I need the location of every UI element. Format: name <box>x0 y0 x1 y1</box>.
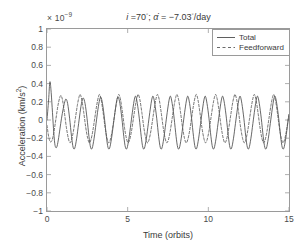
x-axis-label: Time (orbits) <box>46 230 290 240</box>
chart-legend: TotalFeedforward <box>212 29 290 56</box>
x-tick-label: 10 <box>204 214 213 224</box>
legend-item: Total <box>216 33 287 42</box>
title-unit: /day <box>194 12 211 22</box>
legend-item: Feedforward <box>216 43 287 52</box>
x-axis-label-text: Time (orbits) <box>143 230 193 240</box>
data-curves <box>47 29 289 211</box>
x-axis-ticks: 051015 <box>0 214 301 228</box>
legend-line-swatch <box>216 44 236 51</box>
x-tick-label: 15 <box>284 214 293 224</box>
chart-title: i =70◦; α̇ = −7.03◦/day <box>46 10 291 22</box>
y-tick-label: 1 <box>1 24 43 34</box>
series-line-feedforward <box>47 94 289 142</box>
y-axis-label-text: Acceleration (km/s2) <box>17 86 27 167</box>
title-inclination-value: =70 <box>128 12 146 22</box>
x-tick-label: 5 <box>125 214 130 224</box>
legend-label: Total <box>239 33 256 42</box>
legend-line-swatch <box>216 34 236 41</box>
y-axis-label: Acceleration (km/s2) <box>15 51 27 201</box>
x-tick-label: 0 <box>45 214 50 224</box>
legend-label: Feedforward <box>239 43 284 52</box>
title-alpha-dot-value: = −7.03 <box>158 12 191 22</box>
series-line-total <box>47 82 289 149</box>
figure-panel: × 10−9 i =70◦; α̇ = −7.03◦/day 10.80.60.… <box>0 0 301 252</box>
